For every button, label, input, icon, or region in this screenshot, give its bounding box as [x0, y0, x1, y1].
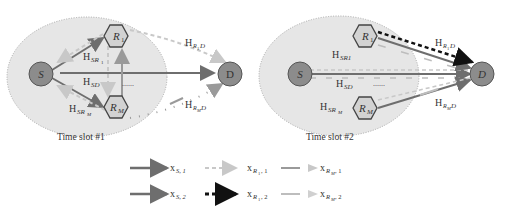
svg-text:S: S: [38, 68, 44, 80]
svg-text:H: H: [435, 97, 442, 108]
caption-time-slot-1: Time slot #1: [57, 132, 105, 142]
svg-text:D: D: [199, 42, 205, 50]
svg-text:SR1: SR1: [340, 54, 351, 62]
svg-text:1: 1: [370, 36, 374, 44]
svg-text:x: x: [247, 162, 252, 173]
svg-text:1: 1: [197, 46, 199, 51]
svg-text:H: H: [69, 103, 76, 114]
svg-text:H: H: [83, 51, 90, 62]
svg-text:H: H: [320, 101, 327, 112]
svg-text:R: R: [358, 102, 366, 114]
svg-text:D: D: [226, 68, 234, 80]
svg-text:, 2: , 2: [335, 193, 342, 200]
coverage-ellipse: [259, 16, 419, 136]
svg-text:M: M: [86, 112, 92, 117]
svg-text:1: 1: [258, 171, 260, 176]
svg-text:1: 1: [258, 197, 260, 202]
svg-text:R: R: [252, 193, 257, 200]
svg-text:R: R: [361, 30, 369, 42]
caption-time-slot-2: Time slot #2: [306, 132, 354, 142]
legend-item-xr1-2: x R 1 , 2: [205, 188, 268, 202]
svg-text:R: R: [325, 193, 330, 200]
legend-item-xs2: x S, 2: [130, 188, 187, 200]
svg-text:, 1: , 1: [335, 167, 342, 174]
svg-text:H: H: [435, 37, 442, 48]
svg-text:M: M: [337, 110, 343, 115]
svg-text:H: H: [332, 49, 339, 60]
label-h-rmd: H R M D: [435, 97, 456, 111]
svg-text:1: 1: [121, 36, 125, 44]
svg-text:D: D: [450, 102, 456, 110]
svg-text:S, 1: S, 1: [176, 167, 186, 174]
svg-text:S: S: [297, 68, 303, 80]
legend-item-xr1-1: x R 1 , 1: [205, 162, 268, 176]
legend: x S, 1 x R 1 , 1 x R M , 1 x S, 2 x R: [130, 162, 342, 202]
svg-text:H: H: [185, 99, 192, 110]
svg-text:R: R: [252, 167, 257, 174]
svg-text:R: R: [112, 30, 120, 42]
svg-text:D: D: [449, 42, 455, 50]
svg-text:D: D: [477, 68, 486, 80]
svg-text:SR: SR: [328, 106, 337, 114]
label-h-r1d: H R 1 D: [185, 37, 205, 51]
label-h-rmd: H R M D: [185, 99, 206, 113]
svg-text:SD: SD: [91, 81, 100, 89]
svg-text:x: x: [247, 188, 252, 199]
label-h-r1d: H R 1 D: [435, 37, 455, 51]
svg-text:x: x: [170, 162, 175, 173]
svg-text:R: R: [109, 101, 117, 113]
svg-text:H: H: [83, 76, 90, 87]
svg-text:, 1: , 1: [261, 167, 268, 174]
svg-text:1: 1: [447, 46, 449, 51]
svg-text:x: x: [170, 188, 175, 199]
legend-item-xrm-1: x R M , 1: [281, 162, 342, 176]
svg-text:SR: SR: [91, 56, 100, 64]
svg-text:, 2: , 2: [261, 193, 268, 200]
svg-text:x: x: [320, 188, 325, 199]
svg-text:H: H: [185, 37, 192, 48]
svg-text:H: H: [336, 78, 343, 89]
ellipsis: ......: [373, 79, 385, 88]
svg-text:M: M: [117, 107, 125, 115]
ellipsis: ......: [122, 79, 134, 88]
legend-item-xs1: x S, 1: [130, 162, 186, 174]
svg-text:SR: SR: [77, 108, 86, 116]
svg-text:SD: SD: [344, 83, 353, 91]
legend-item-xrm-2: x R M , 2: [281, 188, 342, 202]
panel-time-slot-1: S D R 1 R M H SR 1 H SD ...... H SR M H …: [7, 17, 242, 142]
svg-text:R: R: [325, 167, 330, 174]
svg-text:x: x: [320, 162, 325, 173]
panel-time-slot-2: S D R 1 R M H SR1 H SD ...... H SR M H R…: [259, 16, 494, 142]
relay-network-diagram: S D R 1 R M H SR 1 H SD ...... H SR M H …: [0, 0, 508, 217]
svg-text:D: D: [200, 104, 206, 112]
svg-text:M: M: [366, 108, 374, 116]
svg-text:S, 2: S, 2: [176, 193, 187, 200]
